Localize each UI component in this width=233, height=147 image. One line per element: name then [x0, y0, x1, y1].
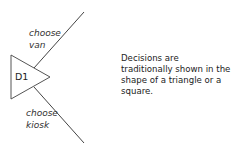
- description-text: Decisions are traditionally shown in the…: [121, 53, 233, 97]
- branch-label-van-line2: van: [29, 39, 61, 51]
- decision-node-label: D1: [15, 71, 28, 82]
- branch-label-kiosk: choose kiosk: [26, 107, 58, 131]
- branch-label-kiosk-line1: choose: [26, 107, 58, 119]
- branch-label-van: choose van: [29, 27, 61, 51]
- branch-label-van-line1: choose: [29, 27, 61, 39]
- branch-label-kiosk-line2: kiosk: [26, 119, 58, 131]
